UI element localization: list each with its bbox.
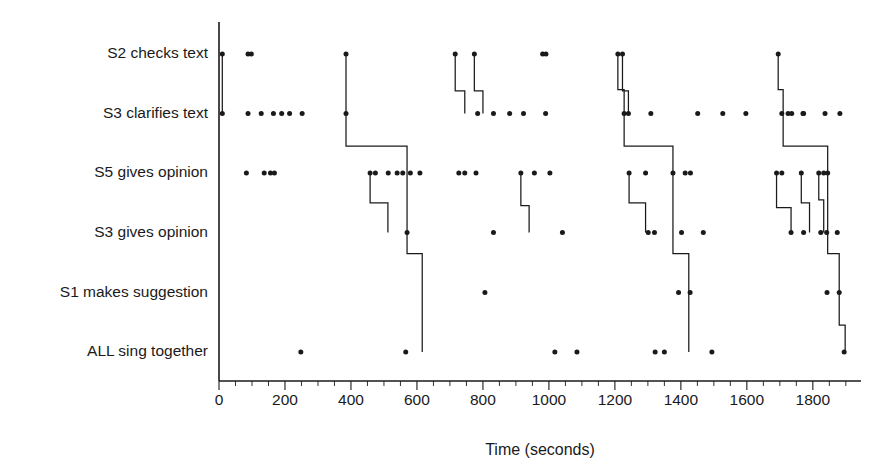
event-dot: [417, 171, 422, 176]
event-dot: [400, 171, 405, 176]
event-dot: [246, 111, 251, 116]
event-dot: [643, 171, 648, 176]
event-dot: [300, 111, 305, 116]
event-dot: [543, 52, 548, 57]
event-dot: [574, 350, 579, 355]
event-dot: [622, 111, 627, 116]
event-dot: [652, 230, 657, 235]
event-dot: [823, 111, 828, 116]
event-dot: [259, 111, 264, 116]
y-axis-label-5: ALL sing together: [87, 342, 208, 359]
event-dot: [453, 52, 458, 57]
event-dot: [825, 171, 830, 176]
event-dot: [816, 171, 821, 176]
event-dot: [249, 52, 254, 57]
chart-root: S2 checks textS3 clarifies textS5 gives …: [0, 0, 893, 471]
event-dot: [615, 52, 620, 57]
event-dot: [679, 230, 684, 235]
event-dot: [220, 111, 225, 116]
event-dot: [560, 230, 565, 235]
x-tick-label-4: 800: [470, 391, 496, 408]
event-dot: [837, 111, 842, 116]
cascade-lines: [222, 54, 845, 352]
event-dot: [627, 171, 632, 176]
y-axis-label-1: S3 clarifies text: [103, 104, 209, 121]
event-dot: [789, 111, 794, 116]
cascade-9: [629, 173, 645, 233]
event-dot: [344, 111, 349, 116]
x-tick-label-7: 1400: [664, 391, 699, 408]
event-dot: [220, 52, 225, 57]
y-axis-labels: S2 checks textS3 clarifies textS5 gives …: [60, 44, 209, 359]
event-dot: [695, 111, 700, 116]
event-dot: [532, 171, 537, 176]
x-tick-label-1: 200: [272, 391, 298, 408]
event-dot: [789, 230, 794, 235]
event-dot: [709, 350, 714, 355]
event-dot: [368, 171, 373, 176]
event-dot: [298, 350, 303, 355]
x-tick-label-2: 400: [338, 391, 364, 408]
event-dot: [521, 111, 526, 116]
event-dot: [720, 111, 725, 116]
event-dot: [552, 350, 557, 355]
event-dot: [825, 290, 830, 295]
cascade-5: [474, 54, 483, 114]
event-dot: [271, 111, 276, 116]
event-dot: [688, 171, 693, 176]
event-dot: [474, 171, 479, 176]
event-dot: [462, 171, 467, 176]
event-dot: [287, 111, 292, 116]
event-dot: [676, 290, 681, 295]
x-axis-tick-labels: 020040060080010001200140016001800: [215, 391, 831, 408]
event-dot: [824, 230, 829, 235]
event-dot: [405, 230, 410, 235]
cascade-13: [819, 173, 824, 233]
event-dot: [626, 111, 631, 116]
event-dot: [701, 230, 706, 235]
y-axis-label-3: S3 gives opinion: [94, 223, 208, 240]
event-dot: [779, 171, 784, 176]
event-dot: [456, 171, 461, 176]
cascade-8: [622, 54, 628, 114]
event-dot: [670, 171, 675, 176]
event-dot: [279, 111, 284, 116]
event-dot: [491, 111, 496, 116]
event-dot: [262, 171, 267, 176]
event-dot: [818, 230, 823, 235]
event-dot: [518, 171, 523, 176]
event-dot: [403, 350, 408, 355]
axis-lines: [219, 22, 861, 381]
event-dot: [776, 52, 781, 57]
event-dot: [373, 171, 378, 176]
cascade-10: [778, 54, 845, 352]
event-dot: [547, 171, 552, 176]
event-dot: [662, 350, 667, 355]
event-dot: [835, 230, 840, 235]
event-dot: [801, 230, 806, 235]
event-dot: [395, 171, 400, 176]
x-axis-title: Time (seconds): [485, 441, 595, 458]
x-tick-label-8: 1600: [730, 391, 765, 408]
event-dot: [842, 350, 847, 355]
event-dots: [220, 52, 847, 355]
event-dot: [743, 111, 748, 116]
x-axis-ticks: [219, 381, 846, 390]
event-dot: [472, 52, 477, 57]
x-tick-label-9: 1800: [796, 391, 831, 408]
cascade-12: [801, 173, 809, 233]
event-dot: [408, 171, 413, 176]
event-dot: [683, 171, 688, 176]
event-dot: [801, 111, 806, 116]
event-dot: [779, 111, 784, 116]
x-tick-label-6: 1200: [598, 391, 633, 408]
event-dot: [543, 111, 548, 116]
event-dot: [344, 52, 349, 57]
event-dot: [482, 290, 487, 295]
event-dot: [272, 171, 277, 176]
cascade-4: [455, 54, 465, 114]
cascade-3: [370, 173, 388, 233]
event-dot: [774, 171, 779, 176]
event-dot: [837, 290, 842, 295]
cascade-11: [777, 173, 792, 233]
